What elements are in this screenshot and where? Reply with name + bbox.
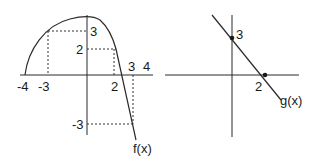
g-point-y-intercept xyxy=(230,36,235,41)
g-x-tick-2: 2 xyxy=(255,79,262,94)
x-tick-neg3: -3 xyxy=(38,79,50,94)
y-tick-neg3: -3 xyxy=(72,117,84,132)
g-point-x-intercept xyxy=(263,73,268,78)
x-tick-2: 2 xyxy=(111,79,118,94)
y-tick-3: 3 xyxy=(90,24,97,39)
g-line xyxy=(212,15,281,100)
graphs-figure: -4 -3 2 3 4 3 2 -3 f(x) 3 2 g(x) xyxy=(0,0,317,168)
x-tick-3: 3 xyxy=(128,59,135,74)
f-label: f(x) xyxy=(133,141,152,156)
x-tick-4: 4 xyxy=(143,59,150,74)
g-y-tick-3: 3 xyxy=(236,27,243,42)
left-graph: -4 -3 2 3 4 3 2 -3 f(x) xyxy=(17,15,153,156)
y-tick-2: 2 xyxy=(76,42,83,57)
left-dashed-guides xyxy=(48,31,133,124)
x-tick-neg4: -4 xyxy=(17,79,29,94)
right-graph: 3 2 g(x) xyxy=(165,15,302,137)
g-label: g(x) xyxy=(280,93,302,108)
